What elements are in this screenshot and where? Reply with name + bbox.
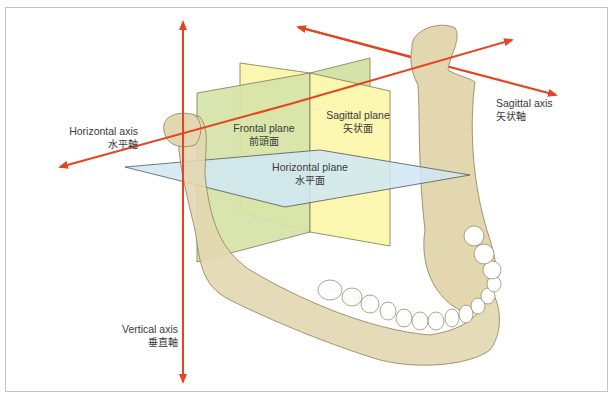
sagittal-axis-label-en: Sagittal axis (496, 96, 553, 110)
frontal-plane-label-en: Frontal plane (222, 121, 306, 135)
vertical-axis-label-en: Vertical axis (60, 322, 178, 336)
horizontal-plane-label-jp: 水平面 (262, 174, 358, 188)
vertical-axis-label-jp: 垂直軸 (60, 336, 178, 350)
sagittal-axis-label: Sagittal axis 矢状軸 (496, 96, 553, 124)
sagittal-axis-label-jp: 矢状軸 (496, 110, 553, 124)
horizontal-plane-label: Horizontal plane 水平面 (262, 160, 358, 188)
frontal-plane-label-jp: 前頭面 (222, 135, 306, 149)
horizontal-axis-label: Horizontal axis 水平軸 (20, 124, 138, 152)
vertical-axis-label: Vertical axis 垂直軸 (60, 322, 178, 350)
horizontal-plane-label-en: Horizontal plane (262, 160, 358, 174)
sagittal-plane-label-jp: 矢状面 (318, 122, 398, 136)
sagittal-plane-label-en: Sagittal plane (318, 108, 398, 122)
horizontal-axis-label-en: Horizontal axis (20, 124, 138, 138)
frontal-plane-label: Frontal plane 前頭面 (222, 121, 306, 149)
sagittal-plane-label: Sagittal plane 矢状面 (318, 108, 398, 136)
horizontal-axis-label-jp: 水平軸 (20, 138, 138, 152)
